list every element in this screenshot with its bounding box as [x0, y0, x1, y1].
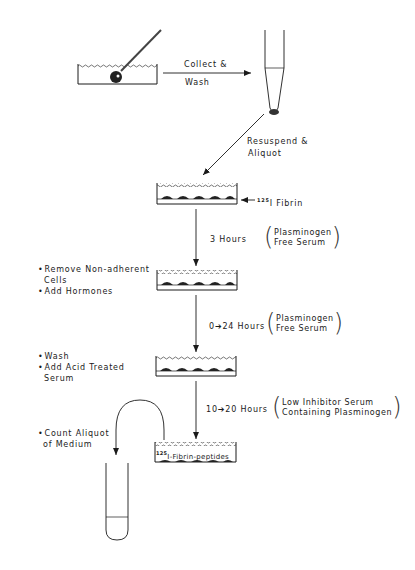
peptides-label: 125I-Fibrin-peptides	[156, 448, 229, 463]
time-3h: 3 Hours	[210, 234, 247, 245]
wash-label: Wash	[185, 77, 210, 88]
step-count: Count Aliquot of Medium	[38, 428, 109, 450]
tissue-icon	[110, 71, 122, 83]
step-wash: Wash Add Acid Treated Serum	[38, 351, 125, 384]
collect-label: Collect &	[184, 59, 227, 70]
time-24h: 0➔24 Hours	[209, 321, 265, 332]
step-remove: Remove Non-adherent Cells Add Hormones	[38, 264, 150, 297]
test-tube	[106, 463, 128, 540]
aliquot-label: Aliquot	[248, 148, 282, 159]
time-20h: 10➔20 Hours	[206, 404, 268, 415]
conical-tube	[265, 30, 284, 115]
well-2	[157, 270, 237, 290]
arrow-transfer	[116, 400, 164, 455]
fibrin-label: 125I Fibrin	[257, 195, 303, 209]
condition-20h: Low Inhibitor SerumContaining Plasminoge…	[276, 398, 398, 418]
well-1	[157, 183, 237, 204]
resuspend-label: Resuspend &	[247, 136, 308, 147]
condition-3h: PlasminogenFree Serum	[268, 228, 338, 248]
pellet-icon	[269, 109, 279, 115]
source-dish	[78, 30, 161, 84]
well-3	[156, 356, 236, 376]
condition-24h: PlasminogenFree Serum	[270, 314, 340, 334]
